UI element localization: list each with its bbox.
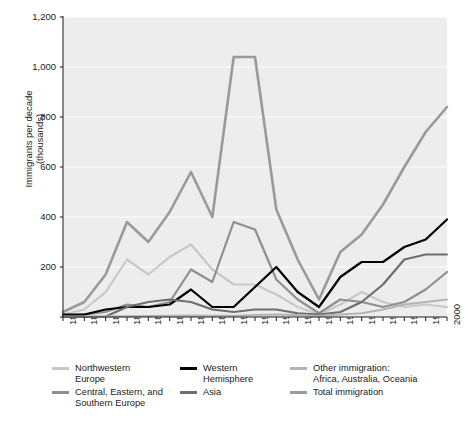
legend-label: Asia xyxy=(203,387,221,398)
legend-item[interactable]: Western Hemisphere xyxy=(180,363,253,384)
plot-area xyxy=(0,0,470,425)
immigration-line-chart: Immigrants per decade (thousands) 200400… xyxy=(0,0,470,425)
legend-item[interactable]: Asia xyxy=(180,387,221,398)
legend-swatch-icon xyxy=(52,367,69,370)
legend-label: Central, Eastern, and Southern Europe xyxy=(75,387,163,408)
legend-swatch-icon xyxy=(290,367,307,370)
legend-item[interactable]: Central, Eastern, and Southern Europe xyxy=(52,387,163,408)
legend-label: Northwestern Europe xyxy=(75,363,130,384)
legend-label: Western Hemisphere xyxy=(203,363,253,384)
legend-label: Other immigration: Africa, Australia, Oc… xyxy=(313,363,417,384)
legend-item[interactable]: Total immigration xyxy=(290,387,383,398)
chart-legend: Northwestern EuropeCentral, Eastern, and… xyxy=(52,363,462,411)
legend-label: Total immigration xyxy=(313,387,383,398)
legend-swatch-icon xyxy=(52,391,69,394)
legend-swatch-icon xyxy=(180,391,197,394)
legend-swatch-icon xyxy=(180,367,197,370)
legend-item[interactable]: Northwestern Europe xyxy=(52,363,130,384)
legend-swatch-icon xyxy=(290,391,307,394)
legend-item[interactable]: Other immigration: Africa, Australia, Oc… xyxy=(290,363,417,384)
